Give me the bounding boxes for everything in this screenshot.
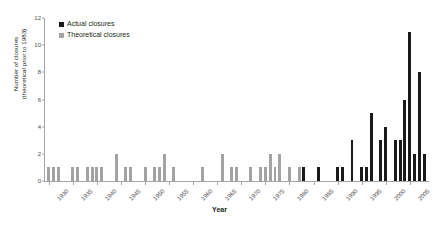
x-axis-tick-label: 1975 xyxy=(272,188,286,202)
y-axis-title-line2: (theoretical prior to 1983) xyxy=(20,4,28,124)
bar-actual-1990 xyxy=(336,167,339,181)
bar-actual-1999 xyxy=(379,140,382,181)
bar-theoretical-1972 xyxy=(249,167,252,181)
x-axis-tick-label: 2005 xyxy=(417,188,431,202)
bar-actual-1996 xyxy=(365,167,368,181)
y-axis-title: Number of closures (theoretical prior to… xyxy=(12,4,32,124)
bar-actual-1997 xyxy=(370,113,373,181)
bar-theoretical-1931 xyxy=(52,167,55,181)
bar-theoretical-1982 xyxy=(298,167,301,181)
bar-theoretical-1976 xyxy=(269,154,272,181)
x-axis-tick-mark xyxy=(169,182,170,185)
bar-actual-2008 xyxy=(423,154,426,181)
x-axis-tick-mark xyxy=(145,182,146,185)
x-axis-tick-label: 1930 xyxy=(56,188,70,202)
y-axis-tick-label: 10 xyxy=(34,42,41,48)
y-axis-tick-label: 2 xyxy=(38,151,41,157)
bar-actual-1995 xyxy=(360,167,363,181)
x-axis-ticks: 1930193519401945195019551960196519701975… xyxy=(44,182,429,222)
x-axis-tick-label: 1965 xyxy=(224,188,238,202)
x-axis-tick-label: 1980 xyxy=(296,188,310,202)
x-axis-tick-label: 2000 xyxy=(393,188,407,202)
x-axis-title: Year xyxy=(0,206,439,213)
x-axis-tick-mark xyxy=(217,182,218,185)
x-axis-tick-mark xyxy=(73,182,74,185)
bar-theoretical-1938 xyxy=(86,167,89,181)
x-axis-tick-label: 1940 xyxy=(104,188,118,202)
y-axis-tick-label: 4 xyxy=(38,124,41,130)
bar-theoretical-1930 xyxy=(47,167,50,181)
bar-theoretical-1978 xyxy=(278,154,281,181)
bar-actual-2004 xyxy=(403,100,406,182)
bar-actual-1991 xyxy=(341,167,344,181)
x-axis-tick-label: 1990 xyxy=(344,188,358,202)
y-axis-tick-label: 0 xyxy=(38,178,41,184)
bar-theoretical-1941 xyxy=(100,167,103,181)
bar-theoretical-1946 xyxy=(124,167,127,181)
bar-theoretical-1956 xyxy=(172,167,175,181)
x-axis-tick-mark xyxy=(386,182,387,185)
y-axis-tick-label: 6 xyxy=(38,97,41,103)
plot-area: 024681012 xyxy=(44,18,429,182)
figure-caption xyxy=(0,218,439,226)
x-axis-tick-mark xyxy=(49,182,50,185)
bar-theoretical-1974 xyxy=(259,167,262,181)
bar-theoretical-1980 xyxy=(288,167,291,181)
y-axis-title-line1: Number of closures xyxy=(12,37,19,92)
x-axis-tick-mark xyxy=(289,182,290,185)
bar-theoretical-1939 xyxy=(91,167,94,181)
bar-theoretical-1932 xyxy=(57,167,60,181)
x-axis-tick-mark xyxy=(410,182,411,185)
x-axis-tick-mark xyxy=(97,182,98,185)
x-axis-tick-mark xyxy=(241,182,242,185)
x-axis-tick-mark xyxy=(193,182,194,185)
bar-series-group xyxy=(44,18,429,181)
bar-actual-1983 xyxy=(302,167,305,181)
bar-theoretical-1954 xyxy=(163,154,166,181)
bar-theoretical-1940 xyxy=(95,167,98,181)
x-axis-tick-label: 1935 xyxy=(80,188,94,202)
bar-actual-2005 xyxy=(408,32,411,181)
x-axis-tick-label: 1955 xyxy=(176,188,190,202)
bar-theoretical-1953 xyxy=(158,167,161,181)
x-axis-tick-label: 1945 xyxy=(128,188,142,202)
x-axis-tick-label: 1950 xyxy=(152,188,166,202)
x-axis-tick-mark xyxy=(338,182,339,185)
bar-actual-2007 xyxy=(418,72,421,181)
bar-actual-2000 xyxy=(384,127,387,181)
bar-theoretical-1935 xyxy=(71,167,74,181)
y-axis-tick-label: 8 xyxy=(38,69,41,75)
bar-theoretical-1952 xyxy=(153,167,156,181)
x-axis-tick-label: 1985 xyxy=(320,188,334,202)
x-axis-tick-label: 1995 xyxy=(369,188,383,202)
y-axis-tick-label: 12 xyxy=(34,15,41,21)
bar-actual-2006 xyxy=(413,154,416,181)
x-axis-tick-label: 1960 xyxy=(200,188,214,202)
x-axis-tick-mark xyxy=(121,182,122,185)
bar-theoretical-1966 xyxy=(221,154,224,181)
bar-actual-1993 xyxy=(351,140,354,181)
x-axis-tick-mark xyxy=(314,182,315,185)
x-axis-tick-mark xyxy=(265,182,266,185)
bar-chart: Number of closures (theoretical prior to… xyxy=(0,0,439,226)
bar-theoretical-1962 xyxy=(201,167,204,181)
bar-theoretical-1944 xyxy=(115,154,118,181)
x-axis-tick-label: 1970 xyxy=(248,188,262,202)
bar-theoretical-1947 xyxy=(129,167,132,181)
bar-actual-2003 xyxy=(399,140,402,181)
bar-theoretical-1950 xyxy=(144,167,147,181)
bar-theoretical-1969 xyxy=(235,167,238,181)
bar-actual-1986 xyxy=(317,167,320,181)
bar-theoretical-1975 xyxy=(264,167,267,181)
x-axis-tick-mark xyxy=(362,182,363,185)
bar-actual-2002 xyxy=(394,140,397,181)
bar-theoretical-1968 xyxy=(230,167,233,181)
bar-theoretical-1977 xyxy=(274,167,277,181)
bar-theoretical-1936 xyxy=(76,167,79,181)
